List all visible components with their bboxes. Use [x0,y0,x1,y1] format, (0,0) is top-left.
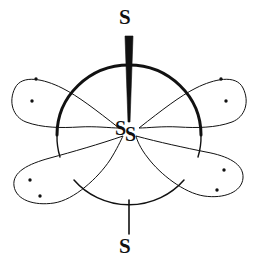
electron-dot [224,99,227,102]
wedge-bond-up [125,36,133,122]
central-sphere-left-arc [57,135,60,157]
electron-dot [28,178,31,181]
electron-dot [219,77,222,80]
electron-dot [34,77,37,80]
atom-label-top: S [119,7,131,28]
lone-pair-lobe-lower-right [136,136,243,197]
molecular-structure-figure: S S S S [0,0,258,267]
electron-dot [30,99,33,102]
atom-label-center-secondary: S [125,124,136,144]
electron-dot [215,188,218,191]
atom-label-bottom: S [119,236,131,257]
lone-pair-lobe-lower-left [14,136,123,204]
electron-dot [222,168,225,171]
lone-pair-lobe-upper-right [139,79,246,128]
electron-dot [38,194,41,197]
lone-pair-lobe-upper-left [12,79,119,128]
